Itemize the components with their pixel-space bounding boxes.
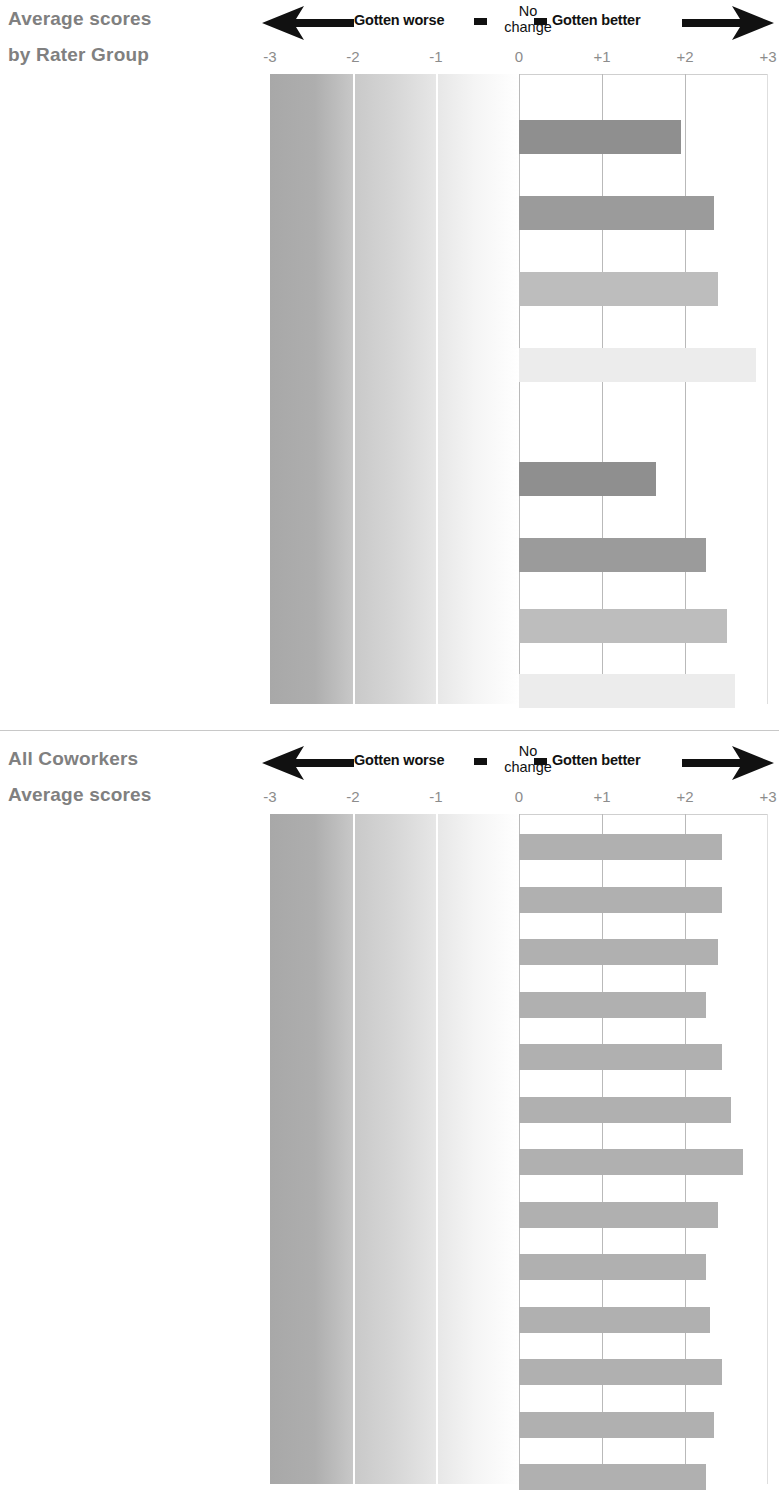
chart-bar (519, 1254, 706, 1280)
panel-title-top-line1: Average scores (8, 6, 152, 31)
chart-row: Subordinate (270, 674, 768, 708)
chart-bar (519, 609, 727, 643)
direction-legend-bottom: Gotten worse No change Gotten better (262, 742, 774, 784)
chart-bar (519, 1044, 722, 1070)
chart-bar (519, 1202, 718, 1228)
legend-better-label: Gotten better (552, 12, 640, 28)
chart-bar (519, 1359, 722, 1385)
right-arrow-icon (682, 746, 774, 780)
chart-row: Direction (270, 1202, 768, 1228)
legend-worse-label: Gotten worse (354, 12, 444, 28)
chart-bar (519, 462, 656, 496)
legend-dash-left (474, 758, 487, 765)
axis-tick-label: -2 (346, 788, 359, 805)
chart-row: Pushes (270, 992, 768, 1018)
legend-dash-right (534, 758, 547, 765)
chart-row: Subordinate (270, 348, 768, 382)
plot-inner-top: Overall effectivenessSelfSuperiorPeerSub… (270, 74, 768, 704)
legend-band-bottom: All Coworkers Gotten worse No change Got… (0, 740, 779, 784)
chart-group-row: Overall effectiveness (270, 92, 768, 114)
chart-bar (519, 887, 722, 913)
chart-bar (519, 538, 706, 572)
chart-row: Efficiency (270, 1412, 768, 1438)
axis-tick-label: 0 (515, 788, 523, 805)
right-arrow-icon (682, 6, 774, 40)
axis-tick-label: +3 (759, 48, 776, 65)
axis-tick-label: +2 (676, 788, 693, 805)
chart-bar (519, 834, 722, 860)
chart-bar (519, 674, 735, 708)
plot-area-bottom: Overall effectivenessTakes chargeDeclare… (0, 814, 779, 1484)
direction-legend-top: Gotten worse No change Gotten better (262, 2, 774, 44)
chart-bar (519, 992, 706, 1018)
axis-tick-label: -3 (263, 48, 276, 65)
legend-dash-right (534, 18, 547, 25)
chart-bar (519, 939, 718, 965)
chart-bar (519, 272, 718, 306)
chart-row: Takes charge (270, 887, 768, 913)
panel-title-bottom-line2: Average scores (8, 782, 152, 807)
axis-tick-label: -1 (429, 48, 442, 65)
chart-row: Supports (270, 1149, 768, 1175)
chart-bar (519, 348, 756, 382)
legend-better-label: Gotten better (552, 752, 640, 768)
chart-row: Listens (270, 1097, 768, 1123)
axis-tick-label: +1 (593, 48, 610, 65)
left-arrow-icon (262, 746, 354, 780)
axis-tick-label: -2 (346, 48, 359, 65)
chart-bar (519, 1307, 710, 1333)
chart-row: Self (270, 462, 768, 496)
chart-row: Overall effectiveness (270, 834, 768, 860)
legend-worse-label: Gotten worse (354, 752, 444, 768)
left-arrow-icon (262, 6, 354, 40)
chart-row: Self (270, 120, 768, 154)
chart-row: Peer (270, 272, 768, 306)
rater-group-chart-panel: Average scores Gotten worse No change Go… (0, 0, 779, 704)
axis-tick-label: -3 (263, 788, 276, 805)
chart-row: Superior (270, 538, 768, 572)
legend-dash-left (474, 18, 487, 25)
axis-tick-label: +1 (593, 788, 610, 805)
axis-tick-row-top: by Rater Group -3-2-10+1+2+3 (0, 44, 779, 74)
plot-area-top: Overall effectivenessSelfSuperiorPeerSub… (0, 74, 779, 704)
chart-row: Order (270, 1464, 768, 1490)
axis-tick-label: +2 (676, 48, 693, 65)
chart-row: Innovation (270, 1307, 768, 1333)
chart-row: Execution (270, 1359, 768, 1385)
axis-tick-row-bottom: Average scores -3-2-10+1+2+3 (0, 784, 779, 814)
panel-title-top-line2: by Rater Group (8, 42, 149, 67)
panel-divider (0, 730, 779, 731)
chart-bar (519, 1097, 731, 1123)
chart-bar (519, 120, 681, 154)
chart-bar (519, 1412, 714, 1438)
chart-row: Peer (270, 609, 768, 643)
chart-group-row: Average Rating Across 12 Behavior Items (270, 404, 768, 426)
axis-tick-label: 0 (515, 48, 523, 65)
chart-row: Declares (270, 939, 768, 965)
chart-row: Empowers (270, 1044, 768, 1070)
all-coworkers-chart-panel: All Coworkers Gotten worse No change Got… (0, 740, 779, 1484)
axis-tick-label: -1 (429, 788, 442, 805)
panel-title-bottom-line1: All Coworkers (8, 746, 138, 771)
legend-band-top: Average scores Gotten worse No change Go… (0, 0, 779, 44)
chart-row: Superior (270, 196, 768, 230)
axis-tick-label: +3 (759, 788, 776, 805)
chart-bar (519, 1464, 706, 1490)
chart-bar (519, 1149, 743, 1175)
chart-row: Growth (270, 1254, 768, 1280)
plot-inner-bottom: Overall effectivenessTakes chargeDeclare… (270, 814, 768, 1484)
chart-bar (519, 196, 714, 230)
